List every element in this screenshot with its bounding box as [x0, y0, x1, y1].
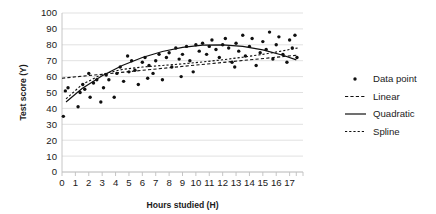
data-point: [210, 38, 213, 41]
y-tick-label: 100: [41, 7, 57, 18]
data-point: [227, 46, 230, 49]
y-tick-label: 40: [46, 103, 57, 114]
x-tick-label: 3: [99, 177, 104, 188]
data-point: [288, 38, 291, 41]
x-tick-label: 13: [231, 177, 242, 188]
x-tick-label: 7: [153, 177, 158, 188]
y-tick-label: 90: [46, 23, 57, 34]
x-tick-label: 2: [86, 177, 91, 188]
data-point: [218, 56, 221, 59]
data-point: [214, 48, 217, 51]
y-tick-label: 20: [46, 135, 57, 146]
data-point: [122, 80, 125, 83]
legend-item: Spline: [345, 126, 400, 137]
data-point: [113, 96, 116, 99]
x-tick-label: 11: [204, 177, 214, 188]
y-tick-label: 70: [46, 55, 57, 66]
data-point: [277, 35, 280, 38]
x-tick-label: 8: [166, 177, 171, 188]
data-point: [126, 54, 129, 57]
data-point: [167, 51, 170, 54]
x-tick-label: 1: [73, 177, 78, 188]
data-point: [154, 59, 157, 62]
data-point: [192, 70, 195, 73]
data-point: [62, 115, 65, 118]
data-point: [146, 76, 149, 79]
x-tick-label: 15: [257, 177, 268, 188]
legend-item: Quadratic: [345, 108, 415, 119]
x-axis-title: Hours studied (H): [146, 200, 218, 210]
data-point: [268, 30, 271, 33]
y-tick-label: 30: [46, 119, 57, 130]
data-point: [201, 42, 204, 45]
data-point: [99, 100, 102, 103]
data-point: [165, 56, 168, 59]
data-point: [88, 96, 91, 99]
x-tick-label: 4: [113, 177, 119, 188]
data-point: [137, 83, 140, 86]
legend-item: Data point: [353, 73, 417, 84]
chart-canvas: 0102030405060708090100012345678910111213…: [0, 0, 436, 214]
legend-label: Quadratic: [373, 108, 415, 119]
x-tick-label: 12: [217, 177, 228, 188]
data-point: [179, 75, 182, 78]
x-tick-label: 14: [244, 177, 255, 188]
data-point: [250, 37, 253, 40]
legend-label: Data point: [373, 73, 417, 84]
data-point: [177, 57, 180, 60]
y-tick-label: 50: [46, 87, 57, 98]
data-point: [241, 34, 244, 37]
data-point: [254, 64, 257, 67]
data-point: [230, 61, 233, 64]
y-axis-title: Test score (Y): [18, 64, 28, 120]
data-point: [107, 78, 110, 81]
legend-item: Linear: [345, 91, 400, 102]
data-point: [234, 42, 237, 45]
data-point: [76, 105, 79, 108]
data-point: [258, 51, 261, 54]
data-point: [205, 53, 208, 56]
x-tick-label: 17: [284, 177, 295, 188]
y-tick-label: 0: [52, 166, 57, 177]
legend-label: Linear: [373, 91, 400, 102]
data-point: [233, 65, 236, 68]
y-tick-label: 10: [46, 151, 57, 162]
data-point: [102, 86, 105, 89]
y-tick-label: 60: [46, 71, 57, 82]
data-point: [141, 61, 144, 64]
data-point: [261, 40, 264, 43]
legend-dot-icon: [353, 77, 356, 80]
data-point: [188, 59, 191, 62]
data-point: [161, 78, 164, 81]
data-point: [295, 56, 298, 59]
x-tick-label: 16: [271, 177, 282, 188]
x-tick-label: 10: [191, 177, 202, 188]
x-tick-label: 0: [59, 177, 64, 188]
data-point: [275, 43, 278, 46]
legend-label: Spline: [373, 126, 400, 137]
data-point: [66, 86, 69, 89]
data-point: [87, 72, 90, 75]
data-point: [224, 37, 227, 40]
x-tick-label: 6: [140, 177, 145, 188]
data-point: [285, 61, 288, 64]
y-tick-label: 80: [46, 39, 57, 50]
x-tick-label: 5: [126, 177, 131, 188]
x-tick-label: 9: [180, 177, 185, 188]
data-point: [151, 72, 154, 75]
data-point: [181, 53, 184, 56]
data-point: [293, 34, 296, 37]
data-point: [198, 49, 201, 52]
scatter-chart: 0102030405060708090100012345678910111213…: [0, 0, 436, 214]
data-point: [237, 49, 240, 52]
data-point: [64, 89, 67, 92]
